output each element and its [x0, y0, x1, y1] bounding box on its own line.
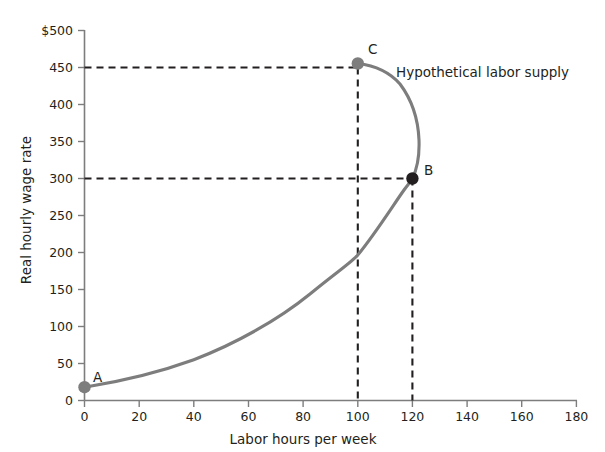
chart-canvas: $500 450 400 350 300 250 200 150 100 50 …	[0, 0, 605, 452]
y-tick-label-250: 250	[49, 208, 73, 223]
y-tick-label-500: $500	[41, 23, 73, 38]
x-tick-label-0: 0	[81, 409, 89, 424]
series-annotation-label: Hypothetical labor supply	[396, 64, 569, 80]
y-tick-label-300: 300	[49, 171, 73, 186]
y-tick-label-100: 100	[49, 319, 73, 334]
label-point-a: A	[93, 369, 103, 385]
labor-supply-chart: $500 450 400 350 300 250 200 150 100 50 …	[0, 0, 605, 452]
x-tick-label-100: 100	[346, 409, 370, 424]
x-tick-label-120: 120	[400, 409, 424, 424]
y-axis-title: Real hourly wage rate	[18, 136, 34, 284]
marker-point-c	[352, 57, 364, 69]
x-tick-label-60: 60	[241, 409, 257, 424]
y-tick-label-0: 0	[65, 393, 73, 408]
label-point-b: B	[424, 162, 433, 178]
y-tick-label-50: 50	[57, 356, 73, 371]
marker-point-b	[406, 172, 418, 184]
x-axis-title: Labor hours per week	[230, 431, 377, 447]
label-point-c: C	[368, 41, 377, 57]
y-tick-label-400: 400	[49, 97, 73, 112]
x-tick-label-180: 180	[564, 409, 588, 424]
y-tick-label-350: 350	[49, 134, 73, 149]
x-tick-label-160: 160	[510, 409, 534, 424]
marker-point-a	[78, 381, 90, 393]
y-tick-label-450: 450	[49, 60, 73, 75]
x-tick-label-80: 80	[295, 409, 311, 424]
y-tick-label-200: 200	[49, 245, 73, 260]
y-tick-label-150: 150	[49, 282, 73, 297]
x-tick-label-20: 20	[131, 409, 147, 424]
x-tick-label-140: 140	[455, 409, 479, 424]
x-tick-label-40: 40	[186, 409, 202, 424]
